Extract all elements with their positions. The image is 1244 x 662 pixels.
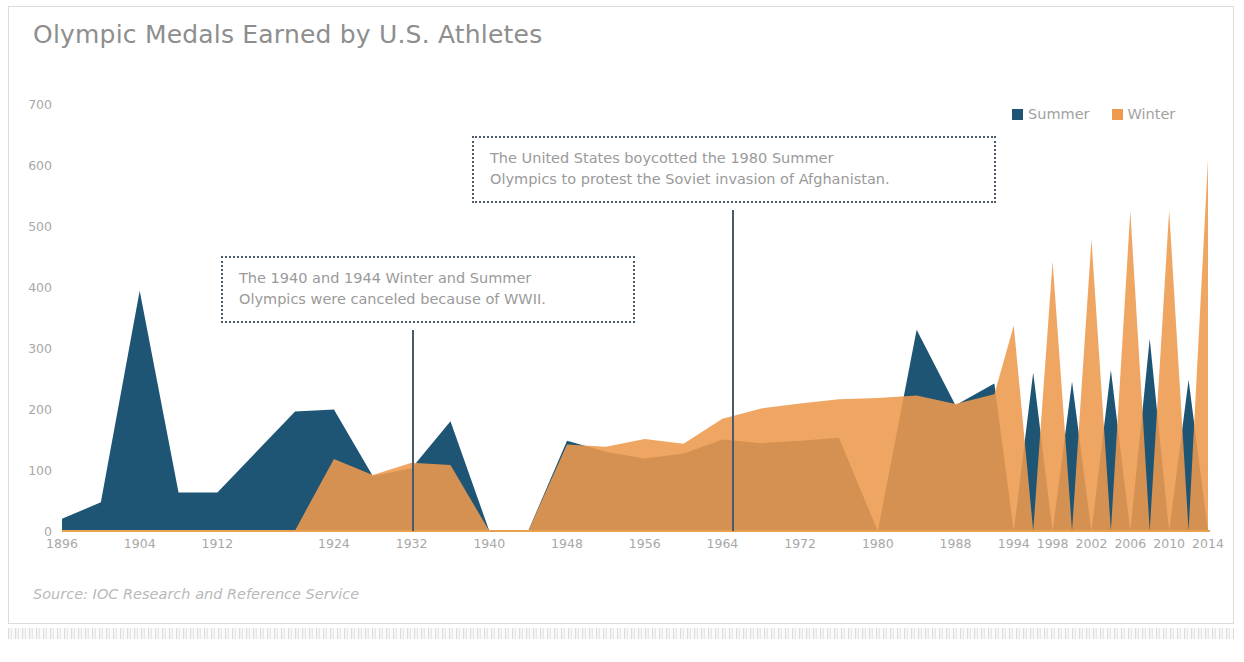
x-tick-label: 1904 (124, 536, 156, 551)
x-tick-label: 1948 (551, 536, 583, 551)
y-tick-label: 400 (12, 280, 52, 295)
chart-legend: SummerWinter (1012, 106, 1175, 122)
annotation-wwii: The 1940 and 1944 Winter and Summer Olym… (221, 256, 635, 323)
x-tick-label: 2010 (1153, 536, 1185, 551)
annotation-boycott-line1: The United States boycotted the 1980 Sum… (490, 148, 980, 169)
legend-swatch-icon (1012, 109, 1023, 120)
annotation-wwii-line2: Olympics were canceled because of WWII. (239, 289, 619, 310)
y-tick-label: 700 (12, 97, 52, 112)
legend-item-summer[interactable]: Summer (1012, 106, 1090, 122)
y-tick-label: 100 (12, 463, 52, 478)
x-tick-label: 2002 (1076, 536, 1108, 551)
x-tick-label: 1988 (940, 536, 972, 551)
chart-container: Olympic Medals Earned by U.S. Athletes 0… (0, 0, 1244, 662)
x-tick-label: 1998 (1037, 536, 1069, 551)
bottom-decorative-strip (8, 628, 1234, 639)
y-tick-label: 200 (12, 402, 52, 417)
x-tick-label: 1972 (784, 536, 816, 551)
annotation-wwii-line1: The 1940 and 1944 Winter and Summer (239, 268, 619, 289)
annotation-wwii-connector (412, 330, 414, 531)
y-tick-label: 300 (12, 341, 52, 356)
legend-swatch-icon (1112, 109, 1123, 120)
x-tick-label: 1912 (201, 536, 233, 551)
x-tick-label: 1964 (707, 536, 739, 551)
x-tick-label: 1980 (862, 536, 894, 551)
x-axis-line (62, 530, 1210, 532)
y-tick-label: 500 (12, 219, 52, 234)
source-note: Source: IOC Research and Reference Servi… (33, 586, 359, 602)
x-tick-label: 1924 (318, 536, 350, 551)
x-tick-label: 1956 (629, 536, 661, 551)
y-axis: 0100200300400500600700 (10, 104, 52, 531)
x-axis: 1896190419121924193219401948195619641972… (0, 536, 1244, 558)
annotation-boycott-line2: Olympics to protest the Soviet invasion … (490, 169, 980, 190)
legend-label: Summer (1028, 106, 1090, 122)
x-tick-label: 1994 (998, 536, 1030, 551)
annotation-boycott-connector (732, 210, 734, 531)
page-title: Olympic Medals Earned by U.S. Athletes (33, 20, 542, 49)
x-tick-label: 2006 (1114, 536, 1146, 551)
annotation-boycott: The United States boycotted the 1980 Sum… (472, 136, 996, 203)
x-tick-label: 1932 (396, 536, 428, 551)
y-tick-label: 600 (12, 158, 52, 173)
x-tick-label: 1940 (473, 536, 505, 551)
legend-label: Winter (1128, 106, 1176, 122)
x-tick-label: 2014 (1192, 536, 1224, 551)
legend-item-winter[interactable]: Winter (1112, 106, 1176, 122)
x-tick-label: 1896 (46, 536, 78, 551)
